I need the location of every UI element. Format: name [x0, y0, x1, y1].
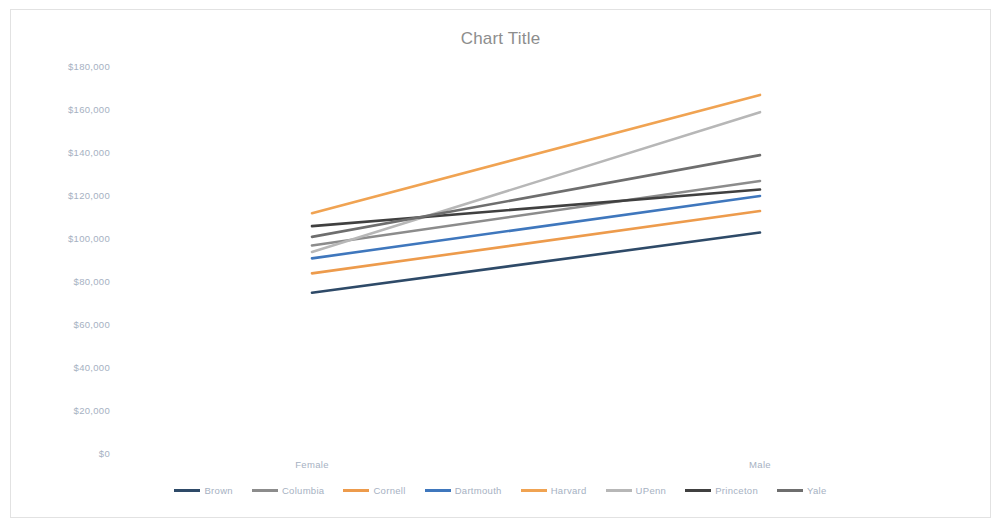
legend-label: Cornell — [373, 485, 405, 496]
legend-item-brown[interactable]: Brown — [174, 485, 232, 496]
legend-swatch-princeton — [685, 489, 711, 492]
legend-swatch-brown — [174, 489, 200, 492]
legend-item-cornell[interactable]: Cornell — [343, 485, 405, 496]
legend-label: Yale — [807, 485, 827, 496]
legend-label: Columbia — [282, 485, 325, 496]
x-axis-tick-label: Female — [252, 459, 372, 470]
legend-item-columbia[interactable]: Columbia — [252, 485, 325, 496]
legend-swatch-dartmouth — [425, 489, 451, 492]
legend-item-yale[interactable]: Yale — [777, 485, 827, 496]
legend-swatch-columbia — [252, 489, 278, 492]
series-line-columbia[interactable] — [312, 181, 760, 246]
x-axis-tick-label: Male — [700, 459, 820, 470]
legend-swatch-harvard — [521, 489, 547, 492]
chart-container: Chart Title $180,000$160,000$140,000$120… — [0, 0, 1001, 527]
legend-swatch-cornell — [343, 489, 369, 492]
legend-swatch-yale — [777, 489, 803, 492]
legend-label: Brown — [204, 485, 232, 496]
legend-item-dartmouth[interactable]: Dartmouth — [425, 485, 502, 496]
legend-item-princeton[interactable]: Princeton — [685, 485, 758, 496]
series-line-dartmouth[interactable] — [312, 196, 760, 258]
legend-item-harvard[interactable]: Harvard — [521, 485, 587, 496]
legend-item-upenn[interactable]: UPenn — [606, 485, 667, 496]
legend-swatch-upenn — [606, 489, 632, 492]
chart-legend[interactable]: BrownColumbiaCornellDartmouthHarvardUPen… — [0, 485, 1001, 496]
legend-label: Harvard — [551, 485, 587, 496]
legend-label: Princeton — [715, 485, 758, 496]
legend-label: Dartmouth — [455, 485, 502, 496]
plot-area — [0, 0, 1001, 527]
legend-label: UPenn — [636, 485, 667, 496]
series-line-upenn[interactable] — [312, 112, 760, 252]
